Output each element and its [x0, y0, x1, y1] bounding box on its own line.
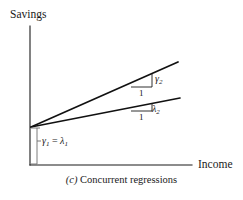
intercept-bracket	[31, 128, 40, 164]
lambda2-subscript: 2	[156, 108, 160, 116]
gamma2-subscript: 2	[159, 78, 163, 86]
common-intercept-label: γ1 = λ1	[42, 136, 68, 148]
gamma2-run-unit-label: 1	[139, 89, 144, 98]
lambda2-slope-label: λ2	[152, 104, 160, 116]
lambda2-run-unit-label: 1	[139, 113, 144, 122]
upper-regression-line	[31, 62, 178, 127]
caption-text: Concurrent regressions	[77, 174, 177, 185]
figure-container: Savings Income γ2 λ2 1 1 γ1 = λ1 (c) Con…	[0, 0, 243, 200]
intercept-equals-sign: =	[49, 135, 60, 146]
x-axis-label: Income	[198, 159, 232, 171]
lambda1-subscript: 1	[64, 140, 68, 148]
y-axis-label: Savings	[10, 9, 46, 21]
gamma2-slope-label: γ2	[155, 74, 162, 86]
figure-caption: (c) Concurrent regressions	[0, 174, 243, 186]
caption-index: (c)	[66, 174, 78, 185]
